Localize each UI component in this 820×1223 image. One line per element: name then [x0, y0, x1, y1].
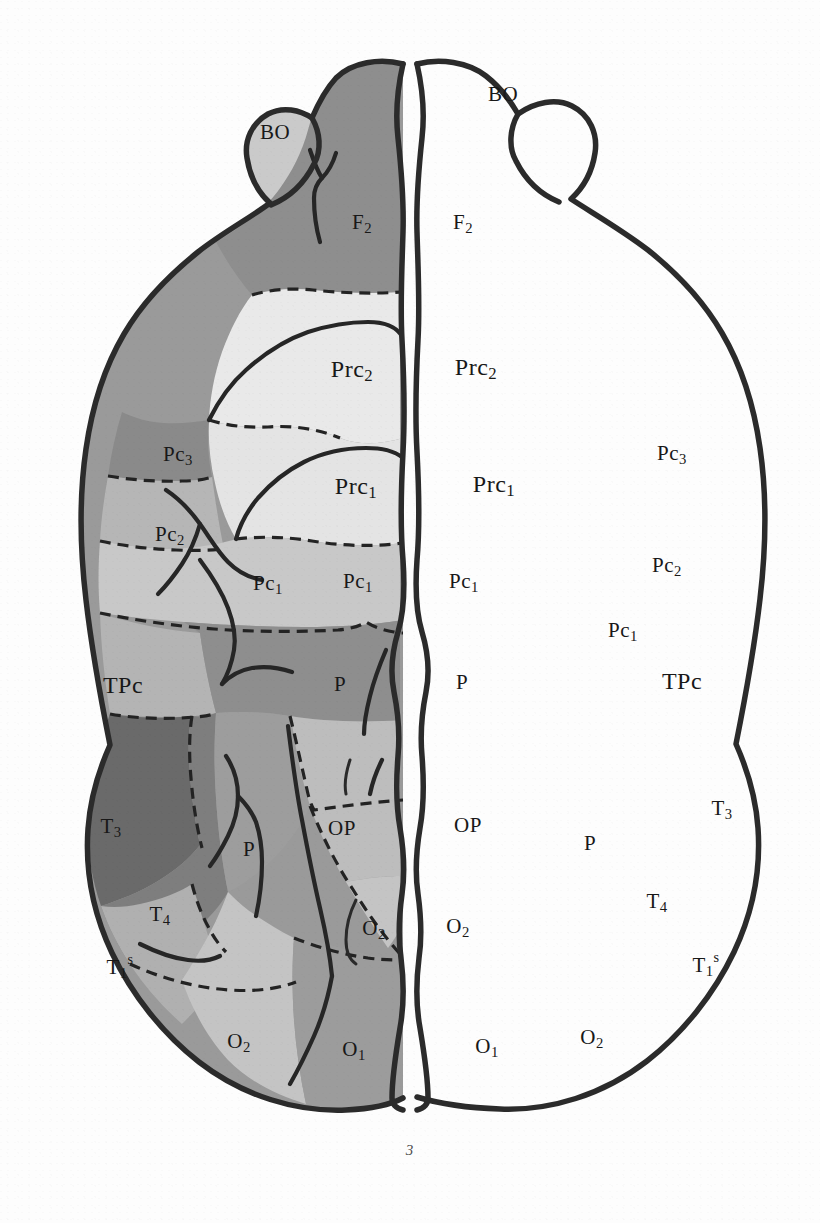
sulcus-t1s-right [600, 944, 680, 961]
boundary-Pc1-P-right [417, 613, 720, 633]
sulcus-occip-right-2 [488, 976, 530, 1084]
region-label-T4_right: T4 [646, 889, 667, 916]
brain-diagram: BOBOF2F2Prc2Prc2Prc1Prc1Pc3Pc3Pc2Pc2Pc1P… [0, 0, 820, 1223]
region-label-Pc2_right: Pc2 [652, 553, 682, 580]
boundary-T3-T4-right [618, 716, 630, 848]
boundary-F2-Prc2-right [417, 289, 568, 295]
region-O2-right-inferior [514, 892, 638, 1104]
region-F2-left [216, 61, 403, 295]
region-OP-right [417, 716, 530, 882]
region-P-right-inferior [510, 712, 606, 892]
region-label-P_left_inf: P [243, 837, 255, 861]
boundary-Prc2-Prc1-right [480, 420, 611, 438]
boundary-Pc2-Pc1-right [596, 541, 720, 550]
sulcus-op-right [470, 760, 475, 794]
region-label-P_right_sup: P [456, 670, 468, 694]
region-Pc2-right [596, 476, 720, 550]
boundary-T1s-O2-right [524, 964, 690, 991]
region-label-TPc_right: TPc [662, 668, 702, 694]
region-label-T3_right: T3 [711, 796, 732, 823]
boundary-T4-T1s-right [594, 884, 628, 952]
region-label-Prc2_right: Prc2 [455, 354, 497, 383]
sulcus-paramedian-right [438, 760, 450, 794]
region-T4-right [592, 713, 719, 964]
region-label-F2_right: F2 [453, 210, 473, 237]
sulcus-postcentral-right [558, 490, 654, 580]
boundary-O2-O1-right [417, 938, 526, 960]
region-P-right-superior [417, 620, 636, 721]
region-label-Prc1_right: Prc1 [473, 471, 515, 500]
boundary-P-OP-right [417, 716, 530, 810]
region-O1-left [293, 938, 404, 1110]
region-label-P_left_sup: P [334, 672, 346, 696]
sulcus-frontal-right [464, 140, 508, 258]
region-label-P_right_inf: P [584, 831, 596, 855]
figure-number: 3 [0, 1142, 820, 1159]
boundary-TPc-T3-right [604, 713, 710, 718]
region-label-OP_left: OP [328, 816, 356, 840]
region-label-Pc1_right_lat: Pc1 [608, 618, 638, 645]
longitudinal-fissure-right [416, 64, 428, 1110]
sulci-right [417, 140, 680, 1084]
sulcus-occip-right [488, 726, 532, 976]
region-label-BO_left: BO [260, 120, 290, 144]
region-label-O1_right: O1 [475, 1034, 499, 1061]
sulcus-parietal-right [434, 650, 456, 734]
region-label-O2_right_med: O2 [446, 914, 470, 941]
areal-boundaries-right [417, 289, 720, 990]
region-label-T1s_right: T1s [692, 949, 719, 979]
outline-BO-right [511, 114, 559, 202]
region-label-O2_right_inf: O2 [580, 1025, 604, 1052]
boundary-Pc3-Pc2-right [608, 476, 712, 481]
region-label-BO_right: BO [488, 82, 518, 106]
sulcus-temporal-right-2 [558, 796, 582, 916]
region-O1-right [417, 938, 528, 1110]
sulcus-central-right [417, 322, 611, 420]
region-label-Pc1_right_med: Pc1 [449, 569, 479, 596]
sulcus-sylvian-right [528, 667, 598, 684]
boundary-Prc1-Pc1-right [417, 537, 584, 545]
region-label-OP_right: OP [454, 813, 482, 837]
brain-figure: BOBOF2F2Prc2Prc2Prc1Prc1Pc3Pc3Pc2Pc2Pc1P… [0, 0, 820, 1223]
region-label-TPc_left: TPc [103, 672, 143, 698]
region-label-Pc3_right: Pc3 [657, 441, 687, 468]
region-Prc2-right [417, 289, 611, 443]
